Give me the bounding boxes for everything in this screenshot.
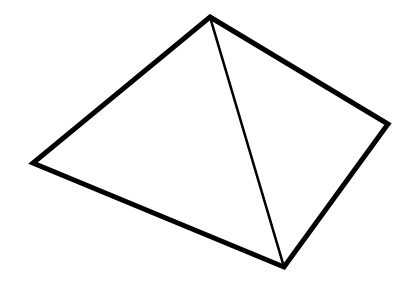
pyramid-svg xyxy=(0,0,403,292)
pyramid-figure-canvas xyxy=(0,0,403,292)
